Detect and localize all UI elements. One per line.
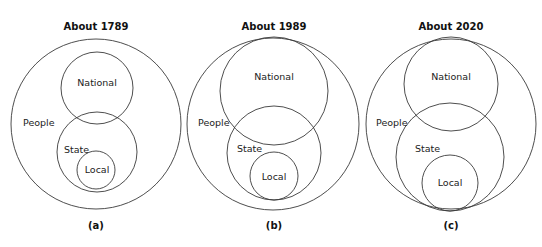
state-label: State bbox=[64, 144, 89, 155]
panel-title: About 1789 bbox=[64, 21, 129, 32]
people-label: People bbox=[198, 117, 230, 128]
panel-2020: About 2020 National People State Local (… bbox=[366, 21, 536, 231]
panel-title: About 1989 bbox=[242, 21, 307, 32]
national-circle bbox=[61, 52, 133, 124]
local-label: Local bbox=[438, 177, 463, 188]
national-label: National bbox=[431, 71, 471, 82]
panel-caption: (a) bbox=[88, 220, 104, 231]
local-label: Local bbox=[85, 164, 110, 175]
panel-caption: (b) bbox=[266, 220, 282, 231]
national-label: National bbox=[254, 71, 294, 82]
national-circle bbox=[220, 37, 328, 145]
panel-title: About 2020 bbox=[419, 21, 484, 32]
state-circle bbox=[396, 103, 504, 211]
state-label: State bbox=[415, 143, 440, 154]
federalism-venn-diagram: About 1789 National People State Local (… bbox=[0, 0, 542, 247]
people-label: People bbox=[376, 117, 408, 128]
national-circle bbox=[404, 37, 498, 131]
panel-1989: About 1989 National People State Local (… bbox=[187, 21, 359, 231]
national-label: National bbox=[77, 77, 117, 88]
people-label: People bbox=[23, 117, 55, 128]
local-label: Local bbox=[262, 171, 287, 182]
panel-caption: (c) bbox=[443, 220, 458, 231]
panel-1789: About 1789 National People State Local (… bbox=[11, 21, 181, 231]
state-label: State bbox=[237, 143, 262, 154]
